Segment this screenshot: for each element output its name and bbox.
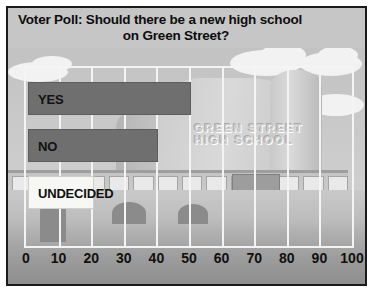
x-tick-70: 70 <box>246 250 262 266</box>
x-tick-0: 0 <box>22 250 30 266</box>
chart-title-band: Voter Poll: Should there be a new high s… <box>8 8 365 48</box>
x-axis: 0 10 20 30 40 50 60 70 80 90 100 <box>8 248 365 286</box>
bar-label-undecided: UNDECIDED <box>38 185 113 200</box>
bar-label-no: NO <box>38 138 57 153</box>
x-tick-20: 20 <box>83 250 99 266</box>
bar-undecided: UNDECIDED <box>28 176 94 209</box>
x-tick-100: 100 <box>340 250 363 266</box>
cloud-icon <box>318 46 358 64</box>
x-tick-80: 80 <box>279 250 295 266</box>
bar-yes: YES <box>28 82 191 115</box>
plot-area: YES NO UNDECIDED <box>24 66 354 248</box>
title-line-1: Voter Poll: Should there be a new high s… <box>18 12 302 27</box>
bar-no: NO <box>28 129 158 162</box>
title-line-2: on Green Street? <box>18 28 358 44</box>
page-title: Voter Poll: Should there be a new high s… <box>18 12 358 44</box>
bar-label-yes: YES <box>38 91 63 106</box>
x-tick-50: 50 <box>181 250 197 266</box>
x-tick-40: 40 <box>149 250 165 266</box>
x-tick-90: 90 <box>312 250 328 266</box>
gridline-80 <box>287 68 289 246</box>
x-tick-10: 10 <box>51 250 67 266</box>
chart-frame: GREEN STREET HIGH SCHOOL <box>6 6 367 286</box>
gridline-70 <box>254 68 256 246</box>
x-tick-60: 60 <box>214 250 230 266</box>
x-tick-30: 30 <box>116 250 132 266</box>
poll-chart-figure: GREEN STREET HIGH SCHOOL <box>0 0 379 298</box>
gridline-90 <box>319 68 321 246</box>
gridline-60 <box>222 68 224 246</box>
